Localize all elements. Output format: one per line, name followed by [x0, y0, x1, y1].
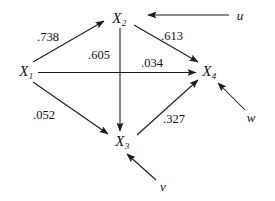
- coefficient-x1-x2: .738: [37, 31, 59, 44]
- path-diagram: X1 X2 X3 X4 u v w .738 .605 .613 .034 .0…: [0, 0, 275, 201]
- disturbance-u: u: [237, 9, 244, 22]
- coefficient-x1-x3: .052: [33, 109, 55, 122]
- disturbance-v: v: [160, 180, 166, 193]
- node-x2: X2: [112, 11, 126, 26]
- node-x3-base: X: [115, 133, 124, 149]
- node-x1: X1: [19, 64, 33, 79]
- node-x4-subscript: 4: [212, 71, 217, 81]
- coefficient-x2-x3: .605: [88, 49, 110, 62]
- node-x2-base: X: [112, 10, 121, 26]
- disturbance-w: w: [247, 111, 256, 124]
- node-x4-base: X: [202, 63, 211, 79]
- node-x4: X4: [202, 64, 216, 79]
- coefficient-x1-x4: .034: [141, 57, 163, 70]
- node-x1-subscript: 1: [29, 71, 34, 81]
- arrow-x3-to-x4: [137, 80, 198, 135]
- coefficient-x2-x4: .613: [161, 30, 183, 43]
- arrow-w-to-x4: [218, 83, 245, 110]
- node-x3-subscript: 3: [125, 141, 130, 151]
- node-x1-base: X: [19, 63, 28, 79]
- node-x2-subscript: 2: [122, 18, 127, 28]
- node-x3: X3: [115, 134, 129, 149]
- coefficient-x3-x4: .327: [163, 113, 185, 126]
- arrow-v-to-x3: [127, 154, 156, 180]
